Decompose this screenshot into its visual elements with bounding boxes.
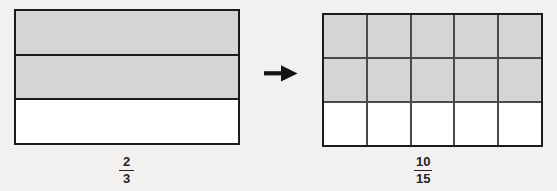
right-model-cell-r1c1 [324, 15, 368, 57]
right-area-model [322, 13, 543, 147]
right-arrow-icon [264, 64, 298, 83]
right-model-cell-r1c2 [368, 15, 412, 57]
right-model-cell-r3c3 [412, 103, 456, 145]
left-model-row-2 [16, 56, 238, 101]
right-model-cell-r3c5 [499, 103, 541, 145]
right-model-cell-r2c2 [368, 59, 412, 101]
right-model-cell-r1c4 [455, 15, 499, 57]
right-model-cell-r2c1 [324, 59, 368, 101]
right-model-row-1 [324, 15, 541, 59]
right-model-row-2 [324, 59, 541, 103]
right-model-cell-r2c5 [499, 59, 541, 101]
right-model-cell-r2c4 [455, 59, 499, 101]
left-fraction-numerator: 2 [121, 155, 132, 170]
left-model-row-1 [16, 11, 238, 56]
right-fraction-label: 10 15 [414, 155, 432, 186]
right-model-cell-r3c2 [368, 103, 412, 145]
right-fraction-numerator: 10 [414, 155, 432, 170]
right-model-cell-r1c3 [412, 15, 456, 57]
right-fraction-denominator: 15 [414, 171, 432, 186]
right-model-cell-r3c4 [455, 103, 499, 145]
right-model-row-3 [324, 103, 541, 145]
left-fraction-label: 2 3 [119, 155, 134, 186]
left-fraction-denominator: 3 [121, 171, 132, 186]
right-model-cell-r3c1 [324, 103, 368, 145]
figure-canvas: 2 3 10 15 [0, 0, 557, 191]
right-model-cell-r2c3 [412, 59, 456, 101]
left-area-model [14, 9, 240, 145]
left-model-row-3 [16, 100, 238, 143]
right-model-cell-r1c5 [499, 15, 541, 57]
